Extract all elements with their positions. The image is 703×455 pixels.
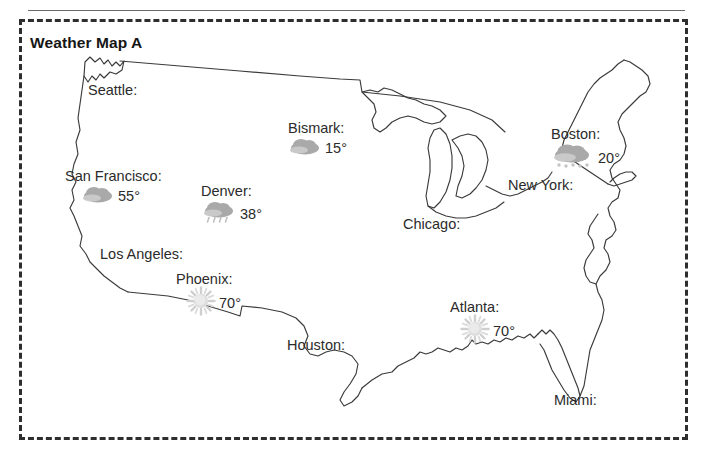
temp-san-francisco: 55°: [118, 188, 140, 204]
city-label-phoenix: Phoenix:: [176, 271, 241, 287]
city-label-denver: Denver:: [201, 183, 262, 199]
us-map-outline: [0, 0, 703, 455]
city-denver[interactable]: Denver: 38°: [201, 183, 262, 230]
temp-phoenix: 70°: [219, 295, 241, 311]
cloud-icon: [288, 135, 322, 161]
city-phoenix[interactable]: Phoenix:: [176, 271, 241, 320]
temp-denver: 38°: [240, 206, 262, 222]
city-label-new-york: New York:: [508, 177, 573, 193]
reading-bismark: 15°: [288, 135, 347, 161]
temp-atlanta: 70°: [493, 323, 515, 339]
city-chicago[interactable]: Chicago:: [403, 216, 460, 232]
city-bismark[interactable]: Bismark: 15°: [288, 120, 347, 161]
cloud-rain-icon: [201, 198, 237, 230]
city-label-san-francisco: San Francisco:: [65, 168, 162, 184]
reading-phoenix: 70°: [176, 286, 241, 320]
reading-denver: 38°: [201, 198, 262, 230]
cloud-icon: [81, 183, 115, 209]
city-boston[interactable]: Boston:: [551, 126, 620, 175]
temp-boston: 20°: [598, 150, 620, 166]
temp-bismark: 15°: [325, 140, 347, 156]
city-label-atlanta: Atlanta:: [450, 299, 515, 315]
city-label-bismark: Bismark:: [288, 120, 347, 136]
city-los-angeles[interactable]: Los Angeles:: [100, 246, 183, 262]
reading-san-francisco: 55°: [65, 183, 162, 209]
reading-boston: 20°: [551, 141, 620, 175]
city-new-york[interactable]: New York:: [508, 177, 573, 193]
weather-map-worksheet: Weather Map A: [0, 0, 703, 455]
cloud-snow-icon: [551, 141, 595, 175]
city-label-chicago: Chicago:: [403, 216, 460, 232]
city-label-miami: Miami:: [554, 392, 597, 408]
reading-atlanta: 70°: [450, 314, 515, 348]
sun-icon: [186, 286, 216, 320]
city-label-los-angeles: Los Angeles:: [100, 246, 183, 262]
city-san-francisco[interactable]: San Francisco: 55°: [65, 168, 162, 209]
city-label-houston: Houston:: [287, 337, 345, 353]
city-seattle[interactable]: Seattle:: [88, 82, 137, 98]
city-miami[interactable]: Miami:: [554, 392, 597, 408]
city-atlanta[interactable]: Atlanta:: [450, 299, 515, 348]
sun-icon: [460, 314, 490, 348]
city-label-seattle: Seattle:: [88, 82, 137, 98]
city-label-boston: Boston:: [551, 126, 620, 142]
city-houston[interactable]: Houston:: [287, 337, 345, 353]
